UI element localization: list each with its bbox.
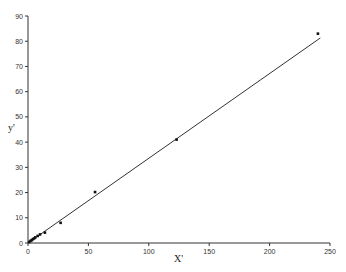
regression-line: [28, 38, 320, 243]
x-tick-label: 50: [85, 248, 93, 255]
y-tick-label: 90: [15, 13, 23, 20]
y-tick-label: 30: [15, 164, 23, 171]
y-tick-label: 0: [19, 240, 23, 247]
y-ticks: 0102030405060708090: [15, 13, 28, 247]
x-tick-label: 250: [324, 248, 336, 255]
y-tick-label: 10: [15, 214, 23, 221]
y-tick-label: 80: [15, 38, 23, 45]
y-tick-label: 50: [15, 113, 23, 120]
y-axis-label: y': [8, 122, 15, 133]
y-tick-label: 20: [15, 189, 23, 196]
data-point: [59, 222, 62, 225]
scatter-chart: 0102030405060708090 050100150200250 y' X…: [0, 0, 346, 262]
data-point: [39, 233, 42, 236]
data-point: [44, 231, 47, 234]
y-tick-label: 40: [15, 139, 23, 146]
y-tick-label: 70: [15, 63, 23, 70]
x-axis-label: X': [174, 253, 183, 262]
x-tick-label: 200: [264, 248, 276, 255]
data-point: [36, 235, 39, 238]
fit-line: [28, 38, 320, 243]
data-point: [94, 191, 97, 194]
data-point: [317, 32, 320, 35]
data-point: [34, 236, 37, 239]
data-point: [175, 138, 178, 141]
y-tick-label: 60: [15, 88, 23, 95]
x-tick-label: 0: [26, 248, 30, 255]
data-points: [28, 32, 319, 243]
x-tick-label: 100: [143, 248, 155, 255]
x-tick-label: 150: [203, 248, 215, 255]
figure-caption-cutoff: [30, 262, 346, 272]
axes: [28, 16, 330, 243]
